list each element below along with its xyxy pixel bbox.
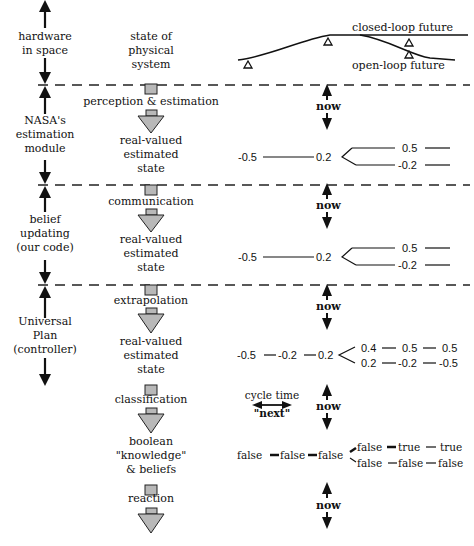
- label-line: NASA's: [5, 114, 85, 128]
- label-line: estimated: [111, 148, 191, 162]
- value-upper: 0.4: [361, 342, 376, 354]
- now-label: now: [316, 400, 341, 413]
- label-closed-loop-future: closed-loop future: [352, 21, 453, 35]
- label-line: real-valued: [111, 134, 191, 148]
- label-line: real-valued: [111, 233, 191, 247]
- now-label: now: [316, 300, 341, 313]
- label-line: (our code): [5, 241, 85, 255]
- value-upper: true: [440, 441, 462, 453]
- value-lower: -0.2: [398, 159, 417, 171]
- value-upper: 0.5: [402, 342, 417, 354]
- label-nasa-module: NASA's estimation module: [5, 114, 85, 156]
- step-extrapolation: extrapolation: [91, 294, 211, 308]
- label-line: & beliefs: [101, 463, 201, 477]
- value-lower: false: [357, 457, 382, 469]
- label-estimated-state-3: real-valued estimated state: [111, 335, 191, 377]
- step-communication: communication: [91, 195, 211, 209]
- label-line: updating: [5, 227, 85, 241]
- value-upper: 0.5: [402, 242, 417, 254]
- now-label: now: [316, 199, 341, 212]
- label-line: state: [111, 261, 191, 275]
- value-lower: false: [398, 457, 423, 469]
- value-past: -0.2: [278, 349, 297, 361]
- label-next: "next": [244, 406, 300, 420]
- value-current: false: [318, 449, 343, 461]
- value-lower: -0.2: [398, 259, 417, 271]
- value-lower: 0.2: [361, 357, 376, 369]
- future-curves: [238, 35, 468, 60]
- label-line: (controller): [5, 343, 85, 357]
- value-upper: true: [398, 441, 420, 453]
- now-label: now: [316, 100, 341, 113]
- label-line: real-valued: [111, 335, 191, 349]
- value-past: false: [237, 449, 262, 461]
- label-line: hardware: [5, 30, 85, 44]
- value-past: -0.5: [238, 151, 257, 163]
- label-line: "knowledge": [101, 449, 201, 463]
- label-line: state: [111, 162, 191, 176]
- label-hardware: hardware in space: [5, 30, 85, 58]
- label-cycle-time: cycle time: [244, 388, 300, 402]
- label-line: belief: [5, 213, 85, 227]
- label-belief-updating: belief updating (our code): [5, 213, 85, 255]
- value-upper: 0.5: [442, 342, 457, 354]
- label-estimated-state-1: real-valued estimated state: [111, 134, 191, 176]
- value-current: 0.2: [316, 251, 331, 263]
- step-reaction: reaction: [101, 492, 201, 506]
- label-line: estimated: [111, 349, 191, 363]
- label-line: estimated: [111, 247, 191, 261]
- label-physical-state: state of physical system: [111, 30, 191, 72]
- label-line: in space: [5, 44, 85, 58]
- label-boolean-beliefs: boolean "knowledge" & beliefs: [101, 435, 201, 477]
- label-line: Universal: [5, 315, 85, 329]
- value-lower: -0.5: [439, 357, 458, 369]
- value-upper: false: [357, 441, 382, 453]
- label-line: estimation: [5, 128, 85, 142]
- label-line: Plan: [5, 329, 85, 343]
- value-current: 0.2: [318, 349, 333, 361]
- label-open-loop-future: open-loop future: [352, 59, 445, 73]
- label-line: boolean: [101, 435, 201, 449]
- label-line: system: [111, 58, 191, 72]
- step-classification: classification: [91, 393, 211, 407]
- now-label: now: [316, 499, 341, 512]
- label-line: state of: [111, 30, 191, 44]
- value-past: -0.5: [238, 251, 257, 263]
- label-line: module: [5, 142, 85, 156]
- value-past: false: [280, 449, 305, 461]
- value-past: -0.5: [237, 349, 256, 361]
- label-universal-plan: Universal Plan (controller): [5, 315, 85, 357]
- value-lower: -0.2: [398, 357, 417, 369]
- label-estimated-state-2: real-valued estimated state: [111, 233, 191, 275]
- step-perception-estimation: perception & estimation: [71, 95, 231, 109]
- value-upper: 0.5: [402, 142, 417, 154]
- value-lower: false: [438, 457, 463, 469]
- label-line: state: [111, 363, 191, 377]
- value-current: 0.2: [316, 151, 331, 163]
- label-line: physical: [111, 44, 191, 58]
